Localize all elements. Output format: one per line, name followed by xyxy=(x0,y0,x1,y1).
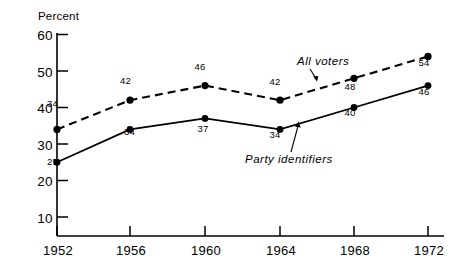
line-chart-canvas: Percent 60 50 40 30 20 10 xyxy=(0,0,454,271)
data-point-all-voters-1956 xyxy=(126,97,133,104)
data-point-all-voters-1952 xyxy=(53,126,60,133)
series-all-voters xyxy=(53,53,431,133)
axis-lines xyxy=(57,33,444,236)
x-tick-label-1972: 1972 xyxy=(414,243,444,258)
y-tick-label-10: 10 xyxy=(37,211,53,226)
y-tick-label-60: 60 xyxy=(37,28,53,43)
annotation-party-identifiers: Party identifiers xyxy=(245,122,333,166)
party-identifiers-line xyxy=(57,86,428,163)
party-identifiers-label: Party identifiers xyxy=(245,153,333,165)
x-tick-label-1968: 1968 xyxy=(340,243,370,258)
x-tick-label-1960: 1960 xyxy=(191,243,221,258)
y-tick-label-50: 50 xyxy=(37,65,53,80)
data-point-all-voters-1960 xyxy=(201,82,208,89)
data-label-all-voters-1964: 42 xyxy=(270,76,281,87)
y-axis-title: Percent xyxy=(38,10,80,22)
y-tick-label-20: 20 xyxy=(37,174,53,189)
data-label-all-voters-1956: 42 xyxy=(120,75,131,86)
x-tick-label-1952: 1952 xyxy=(43,243,73,258)
data-label-party-1960: 37 xyxy=(198,123,209,134)
y-tick-label-30: 30 xyxy=(37,138,53,153)
y-axis-ticks xyxy=(57,35,68,218)
data-label-all-voters-1972: 54 xyxy=(419,57,430,68)
data-label-all-voters-1968: 48 xyxy=(345,81,356,92)
all-voters-label: All voters xyxy=(296,55,349,67)
all-voters-markers xyxy=(53,53,431,133)
data-label-all-voters-1952: 34 xyxy=(47,98,58,109)
y-axis-tick-labels: 60 50 40 30 20 10 xyxy=(37,28,53,226)
data-label-party-1964: 34 xyxy=(270,129,281,140)
x-axis-ticks xyxy=(57,226,428,236)
x-tick-label-1964: 1964 xyxy=(266,243,296,258)
all-voters-arrowhead-icon xyxy=(313,76,318,82)
chart-figure: Percent 60 50 40 30 20 10 xyxy=(0,0,454,271)
data-point-party-identifiers-1960 xyxy=(202,115,209,122)
data-label-party-1972: 46 xyxy=(419,86,430,97)
series-party-identifiers xyxy=(54,82,432,165)
data-label-all-voters-1960: 46 xyxy=(195,61,206,72)
data-label-party-1952: 25 xyxy=(47,156,58,167)
party-identifiers-data-labels: 25 34 37 34 40 46 xyxy=(47,86,429,167)
all-voters-line xyxy=(57,56,428,129)
x-tick-label-1956: 1956 xyxy=(116,243,146,258)
data-label-party-1956: 34 xyxy=(124,126,135,137)
data-point-all-voters-1964 xyxy=(276,97,283,104)
party-identifiers-leader-line xyxy=(291,126,298,152)
x-axis-tick-labels: 1952 1956 1960 1964 1968 1972 xyxy=(43,243,444,258)
all-voters-data-labels: 34 42 46 42 48 54 xyxy=(47,57,429,109)
data-label-party-1968: 40 xyxy=(345,107,356,118)
annotation-all-voters: All voters xyxy=(296,55,349,82)
